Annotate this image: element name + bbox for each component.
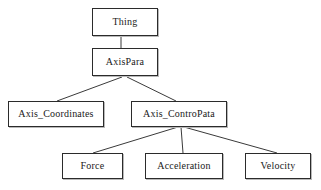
node-velocity[interactable]: Velocity — [245, 153, 311, 179]
node-axis-coordinates-label: Axis_Coordinates — [18, 109, 93, 119]
edge-axis-contropata-to-velocity — [184, 127, 277, 153]
edge-axis-contropata-to-force — [93, 127, 178, 153]
node-force[interactable]: Force — [62, 153, 123, 179]
node-acceleration-label: Acceleration — [157, 161, 210, 171]
node-axis-contropata[interactable]: Axis_ControPata — [131, 101, 227, 127]
node-thing[interactable]: Thing — [92, 8, 158, 36]
edge-axispara-to-axis-contropata — [127, 77, 176, 101]
node-axis-coordinates[interactable]: Axis_Coordinates — [8, 101, 104, 127]
node-axis-contropata-label: Axis_ControPata — [143, 109, 215, 119]
class-hierarchy-diagram: Thing AxisPara Axis_Coordinates Axis_Con… — [0, 0, 321, 190]
node-acceleration[interactable]: Acceleration — [145, 153, 223, 179]
edge-axispara-to-axis-coordinates — [57, 77, 122, 101]
node-thing-label: Thing — [113, 17, 138, 27]
node-axispara[interactable]: AxisPara — [92, 48, 158, 76]
edge-axis-contropata-to-acceleration — [181, 127, 183, 153]
node-force-label: Force — [81, 161, 105, 171]
node-axispara-label: AxisPara — [106, 57, 144, 67]
node-velocity-label: Velocity — [261, 161, 296, 171]
